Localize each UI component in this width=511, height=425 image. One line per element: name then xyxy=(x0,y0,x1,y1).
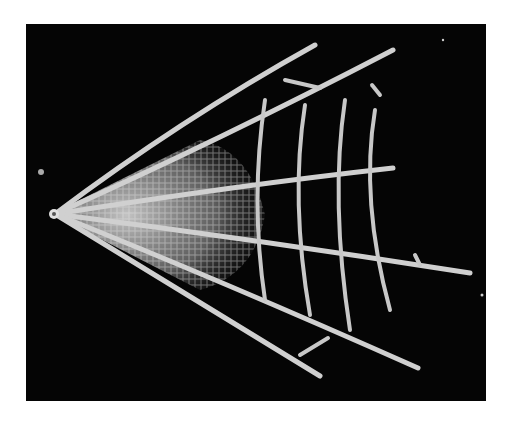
radiolarian-skeleton xyxy=(26,24,486,401)
micrograph-photo xyxy=(26,24,486,401)
